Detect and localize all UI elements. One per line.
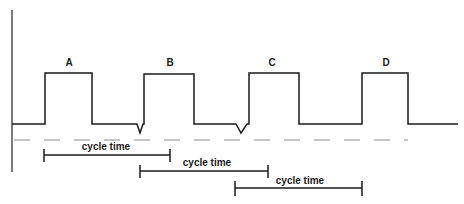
cycle-time-label-1: cycle time bbox=[82, 142, 130, 152]
pulse-label-b: B bbox=[166, 58, 173, 68]
pulse-label-d: D bbox=[382, 58, 389, 68]
cycle-time-label-2: cycle time bbox=[183, 158, 231, 168]
timing-diagram: A B C D cycle time cycle time cycle time bbox=[0, 0, 464, 204]
diagram-graphics bbox=[0, 0, 464, 204]
pulse-label-a: A bbox=[65, 58, 72, 68]
signal-waveform bbox=[12, 73, 458, 133]
pulse-label-c: C bbox=[268, 58, 275, 68]
cycle-time-label-3: cycle time bbox=[276, 176, 324, 186]
